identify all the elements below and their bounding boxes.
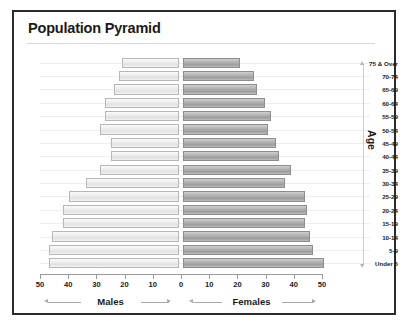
age-axis-title: Age (366, 130, 378, 150)
pyramid-row: 40-44 (40, 150, 322, 163)
male-bar (49, 245, 179, 255)
female-bar (183, 138, 276, 148)
female-bar (183, 71, 254, 81)
male-bar (114, 84, 179, 94)
caption-arrow-left-icon (44, 299, 48, 303)
female-bar (183, 165, 290, 175)
female-bar (183, 58, 239, 68)
pyramid-row: 20-24 (40, 203, 322, 216)
x-axis-tick (125, 274, 126, 279)
x-axis-tick (209, 274, 210, 279)
age-group-label: 5-9 (336, 246, 398, 253)
x-axis-tick-label: 40 (64, 280, 72, 289)
title-divider (27, 43, 375, 44)
male-bar (122, 58, 178, 68)
female-bar (183, 98, 265, 108)
age-axis-arrow-down-icon (360, 264, 364, 268)
age-group-label: 70-74 (336, 73, 398, 80)
age-group-label: 20-24 (336, 206, 398, 213)
x-axis-tick-label: 50 (36, 280, 44, 289)
female-caption-rule-right (282, 302, 315, 303)
pyramid-row: 60-64 (40, 96, 322, 109)
caption-arrow-right-icon (167, 299, 171, 303)
male-bar (105, 98, 178, 108)
age-group-label: Under 5 (336, 260, 398, 267)
age-group-label: 35-39 (336, 166, 398, 173)
x-axis-tick (68, 274, 69, 279)
x-axis-tick (181, 274, 182, 279)
age-group-label: 30-34 (336, 180, 398, 187)
age-group-label: 65-69 (336, 86, 398, 93)
x-axis-tick (40, 274, 41, 279)
x-axis-tick (294, 274, 295, 279)
male-bar (111, 138, 179, 148)
female-bar (183, 245, 313, 255)
male-group-caption: Males (97, 296, 123, 307)
age-group-label: 55-59 (336, 113, 398, 120)
male-bar (86, 178, 179, 188)
male-bar (49, 258, 179, 268)
pyramid-row: 10-14 (40, 230, 322, 243)
age-group-label: 15-19 (336, 220, 398, 227)
x-axis-tick (153, 274, 154, 279)
pyramid-row: 50-54 (40, 123, 322, 136)
x-axis-tick-label: 10 (149, 280, 157, 289)
female-bar (183, 231, 310, 241)
male-caption-rule-right (141, 302, 170, 303)
chart-frame: Population Pyramid 75 & Over70-7465-6960… (12, 10, 396, 315)
pyramid-row: 25-29 (40, 190, 322, 203)
male-bar (100, 124, 179, 134)
female-caption-rule-left (193, 302, 222, 303)
x-axis-tick-label: 50 (318, 280, 326, 289)
x-axis-tick-label: 40 (290, 280, 298, 289)
pyramid-row: 55-59 (40, 110, 322, 123)
x-axis-tick-label: 20 (120, 280, 128, 289)
pyramid-row: 30-34 (40, 176, 322, 189)
male-bar (105, 111, 178, 121)
caption-arrow-right-icon (312, 299, 316, 303)
x-axis-tick-label: 0 (179, 280, 183, 289)
caption-arrow-left-icon (189, 299, 193, 303)
age-group-label: 75 & Over (336, 59, 398, 66)
age-group-label: 60-64 (336, 99, 398, 106)
male-bar (100, 165, 179, 175)
pyramid-row: 15-19 (40, 217, 322, 230)
pyramid-row: 35-39 (40, 163, 322, 176)
pyramid-row: 70-74 (40, 69, 322, 82)
x-axis-tick (266, 274, 267, 279)
female-bar (183, 191, 304, 201)
x-axis-tick (96, 274, 97, 279)
age-axis-line (363, 64, 364, 266)
chart-title: Population Pyramid (28, 20, 161, 36)
male-bar (52, 231, 179, 241)
female-bar (183, 218, 304, 228)
pyramid-row: 75 & Over (40, 56, 322, 69)
male-bar (63, 205, 179, 215)
pyramid-plot-area: 75 & Over70-7465-6960-6455-5950-5445-494… (40, 56, 322, 270)
female-bar (183, 151, 279, 161)
male-bar (69, 191, 179, 201)
x-axis-tick (237, 274, 238, 279)
age-group-label: 25-29 (336, 193, 398, 200)
age-group-label: 40-44 (336, 153, 398, 160)
x-axis-tick (322, 274, 323, 279)
female-group-caption: Females (232, 296, 270, 307)
pyramid-row: Under 5 (40, 257, 322, 270)
female-bar (183, 111, 270, 121)
age-axis-arrow-up-icon (360, 61, 364, 65)
age-group-label: 10-14 (336, 233, 398, 240)
female-bar (183, 124, 268, 134)
female-bar (183, 84, 256, 94)
male-caption-rule-left (48, 302, 81, 303)
pyramid-row: 65-69 (40, 83, 322, 96)
female-bar (183, 205, 307, 215)
male-bar (63, 218, 179, 228)
pyramid-row: 5-9 (40, 243, 322, 256)
x-axis-tick-label: 10 (205, 280, 213, 289)
male-bar (119, 71, 178, 81)
female-bar (183, 258, 324, 268)
pyramid-row: 45-49 (40, 136, 322, 149)
x-axis-tick-label: 30 (92, 280, 100, 289)
male-bar (111, 151, 179, 161)
female-bar (183, 178, 285, 188)
